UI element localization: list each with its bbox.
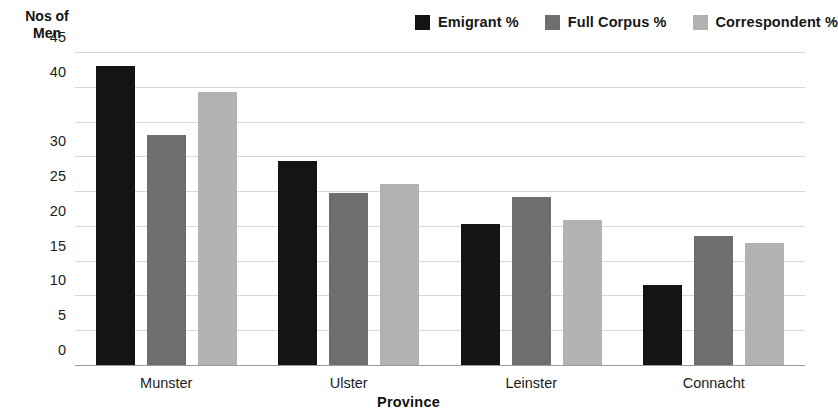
y-axis-tick-label: 0 [58, 342, 66, 358]
bar [461, 224, 500, 365]
y-axis-tick-label: 5 [58, 307, 66, 323]
y-axis-title: Nos of Men [8, 8, 86, 41]
bar [643, 285, 682, 365]
bar [147, 135, 186, 365]
x-axis-line [75, 365, 805, 366]
legend-swatch-full-corpus [545, 15, 560, 30]
legend-label-emigrant: Emigrant % [438, 14, 519, 30]
bar-group: Ulster [258, 52, 441, 365]
bar [745, 243, 784, 365]
y-axis-title-line2: Men [8, 25, 86, 42]
bar [512, 197, 551, 365]
legend-swatch-emigrant [415, 15, 430, 30]
bar-group: Connacht [623, 52, 806, 365]
bar [563, 220, 602, 365]
legend-swatch-correspondent [693, 15, 708, 30]
y-axis-tick-label: 15 [50, 238, 66, 254]
legend-item-correspondent: Correspondent % [693, 14, 838, 30]
bar [198, 92, 237, 365]
bar-group: Munster [75, 52, 258, 365]
bar [278, 161, 317, 365]
y-axis-tick-label: 20 [50, 203, 66, 219]
legend-item-full-corpus: Full Corpus % [545, 14, 667, 30]
legend-label-full-corpus: Full Corpus % [568, 14, 667, 30]
chart-legend: Emigrant % Full Corpus % Correspondent % [415, 14, 838, 30]
y-axis-tick-label: 25 [50, 168, 66, 184]
bar [380, 184, 419, 365]
x-axis-tick-label: Leinster [440, 375, 623, 391]
x-axis-title: Province [0, 394, 817, 410]
legend-item-emigrant: Emigrant % [415, 14, 519, 30]
x-axis-tick-label: Munster [75, 375, 258, 391]
bar [329, 193, 368, 365]
bar [96, 66, 135, 365]
bar [694, 236, 733, 365]
y-axis-tick-label: 45 [50, 29, 66, 45]
y-axis-title-line1: Nos of [25, 8, 69, 24]
x-axis-tick-label: Connacht [623, 375, 806, 391]
legend-label-correspondent: Correspondent % [716, 14, 838, 30]
y-axis-tick-label: 10 [50, 272, 66, 288]
plot-area: 0510152025304045 MunsterUlsterLeinsterCo… [75, 52, 805, 366]
x-axis-tick-label: Ulster [258, 375, 441, 391]
y-axis-tick-label: 30 [50, 133, 66, 149]
bar-group: Leinster [440, 52, 623, 365]
y-axis-tick-label: 40 [50, 64, 66, 80]
